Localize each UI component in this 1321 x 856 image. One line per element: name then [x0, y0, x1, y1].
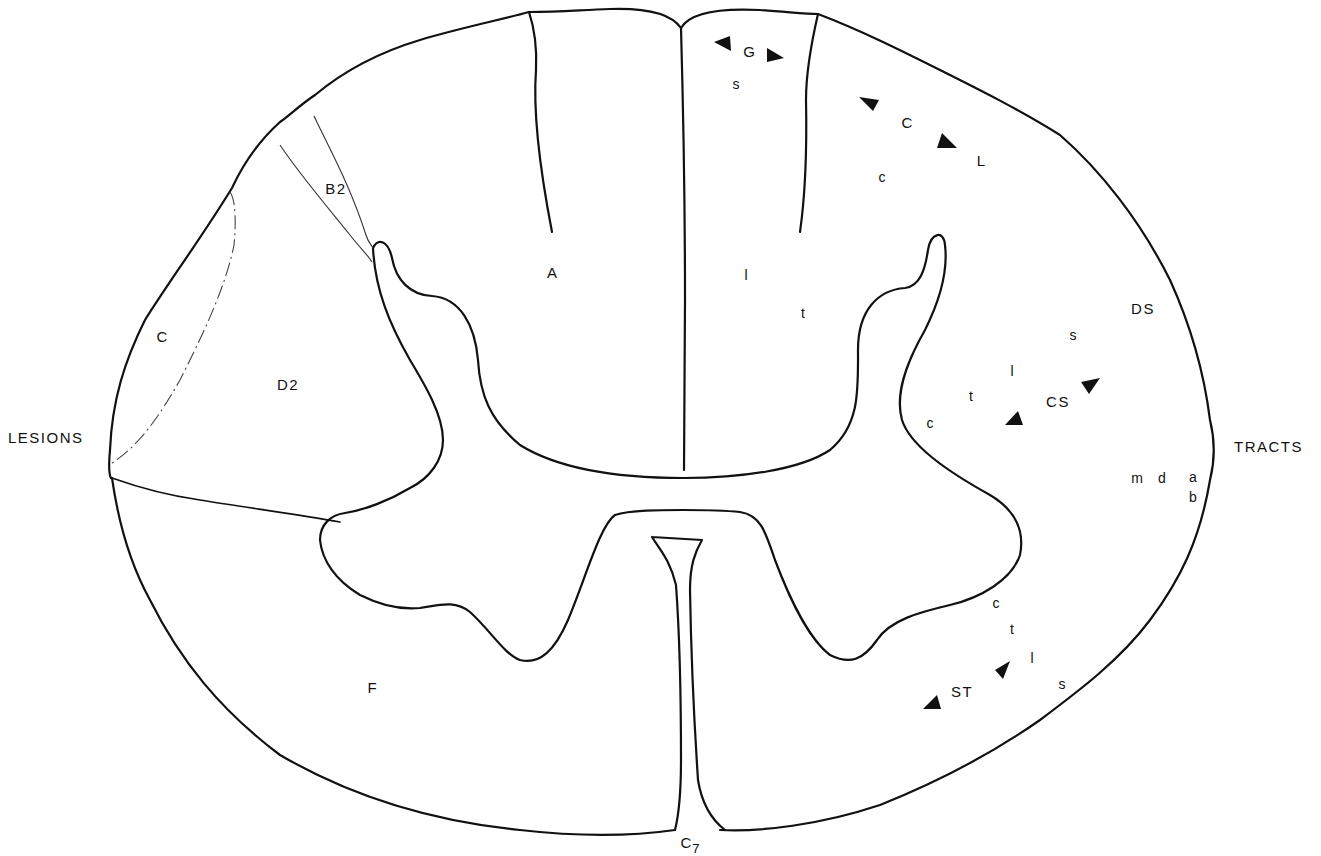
gracile-lamina-s: s — [733, 77, 740, 91]
lesion-c-boundary — [112, 192, 235, 463]
cord-outline-right — [681, 10, 1214, 831]
cs-lamina-l: l — [1010, 364, 1013, 378]
lesions-heading: LESIONS — [8, 430, 84, 445]
st-lamina-c: c — [993, 596, 1000, 610]
left-dorsal-intermediate-septum — [529, 12, 552, 232]
ventral-median-fissure — [652, 537, 725, 830]
cuneate-lower-arrow-icon — [937, 133, 957, 148]
level-subscript: 7 — [692, 841, 699, 856]
lamina-b: b — [1189, 490, 1197, 504]
cs-lamina-t: t — [969, 389, 973, 403]
lesion-label-b2: B2 — [325, 181, 346, 196]
gracile-left-arrow-icon — [714, 36, 731, 51]
st-lower-arrow-icon — [923, 695, 941, 709]
dorsal-median-septum — [681, 28, 685, 470]
gray-matter — [320, 235, 1021, 661]
st-upper-arrow-icon — [995, 661, 1010, 679]
tract-label-st: ST — [951, 684, 973, 699]
gracile-right-arrow-icon — [767, 48, 784, 62]
spinal-cord-cross-section — [0, 0, 1321, 856]
st-lamina-s: s — [1059, 677, 1066, 691]
tract-label-cs: CS — [1046, 394, 1070, 409]
cs-lower-arrow-icon — [1005, 411, 1023, 425]
lesion-f-boundary — [112, 478, 340, 522]
tract-label-c-upper: C — [902, 115, 913, 130]
cuneate-upper-arrow-icon — [859, 97, 879, 111]
lamina-a: a — [1189, 470, 1197, 484]
tract-label-ds: DS — [1131, 301, 1155, 316]
st-lamina-t: t — [1010, 622, 1014, 636]
cs-upper-arrow-icon — [1081, 378, 1100, 394]
lesion-label-a: A — [547, 265, 557, 280]
cs-lamina-c: c — [927, 416, 934, 430]
dorsal-lamina-l: l — [744, 268, 747, 282]
dorsal-lamina-t: t — [801, 306, 805, 320]
lesion-b2-boundary-inner — [280, 145, 372, 262]
st-lamina-l: l — [1030, 651, 1033, 665]
lesion-label-d2: D2 — [277, 377, 299, 392]
cord-outline-left — [109, 9, 681, 835]
lesion-label-f: F — [367, 680, 376, 695]
tract-label-g: G — [743, 44, 755, 59]
cs-lamina-s: s — [1070, 328, 1077, 342]
right-dorsal-intermediate-septum — [800, 14, 818, 232]
lesion-label-c: C — [157, 329, 168, 344]
tract-label-l: L — [977, 153, 985, 168]
cord-level-label: C7 — [680, 835, 699, 850]
level-letter: C — [680, 834, 691, 851]
cuneate-lamina-c: c — [879, 170, 886, 184]
lamina-d: d — [1158, 471, 1166, 485]
tracts-heading: TRACTS — [1234, 439, 1303, 454]
lamina-m: m — [1131, 471, 1143, 485]
